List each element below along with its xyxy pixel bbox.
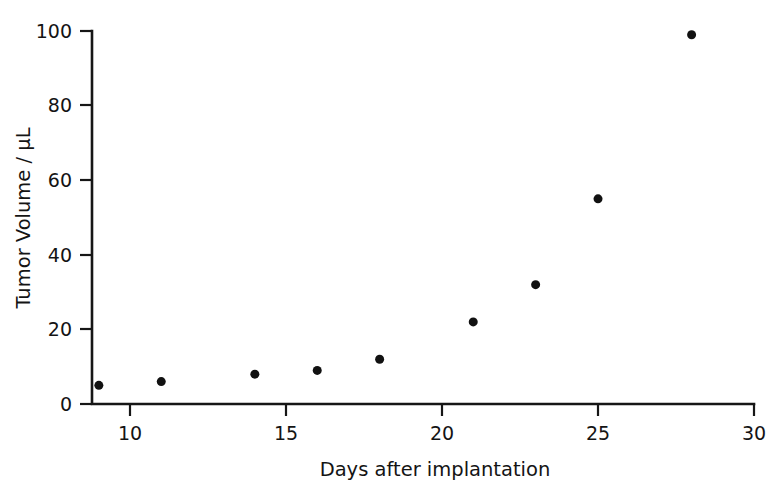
x-tick-label-20: 20	[430, 422, 454, 444]
scatter-plot-figure: 100 80 60 40 20 0 10 15 20 25 30 Days af…	[0, 0, 784, 486]
x-axis-tick-labels: 10 15 20 25 30	[118, 422, 766, 444]
y-tick-label-60: 60	[48, 169, 72, 191]
data-point	[687, 30, 696, 39]
x-tick-label-30: 30	[742, 422, 766, 444]
data-point	[94, 381, 103, 390]
x-axis-title: Days after implantation	[320, 458, 551, 481]
x-tick-label-15: 15	[274, 422, 298, 444]
x-tick-label-10: 10	[118, 422, 142, 444]
data-point	[469, 317, 478, 326]
data-point	[594, 194, 603, 203]
data-point	[375, 355, 384, 364]
y-axis-tick-labels: 100 80 60 40 20 0	[36, 20, 72, 415]
data-point	[157, 377, 166, 386]
x-tick-label-25: 25	[586, 422, 610, 444]
plot-canvas: 100 80 60 40 20 0 10 15 20 25 30 Days af…	[0, 0, 784, 486]
y-tick-label-40: 40	[48, 244, 72, 266]
y-axis-ticks	[80, 31, 92, 404]
x-axis-ticks	[130, 404, 754, 416]
y-tick-label-20: 20	[48, 318, 72, 340]
y-tick-label-0: 0	[60, 393, 72, 415]
data-point	[531, 280, 540, 289]
data-point-series	[94, 30, 696, 390]
y-tick-label-80: 80	[48, 94, 72, 116]
data-point	[250, 370, 259, 379]
y-tick-label-100: 100	[36, 20, 72, 42]
axis-spines	[92, 31, 754, 404]
y-axis-title: Tumor Volume / µL	[12, 127, 35, 309]
data-point	[313, 366, 322, 375]
